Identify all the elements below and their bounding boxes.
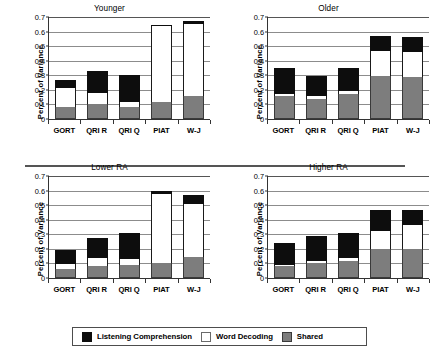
bar-segment-gray: [119, 265, 140, 278]
bar-slot: [81, 17, 113, 119]
x-tick-marks-lower-ra: [48, 279, 210, 283]
legend-label: Word Decoding: [216, 332, 273, 341]
x-axis-label: QRI Q: [113, 126, 145, 135]
bar-segment-gray: [370, 249, 391, 278]
bar-slot: [49, 176, 81, 278]
panel-lower-ra: Lower RA Percent of Variance 0.70.60.50.…: [0, 163, 219, 315]
stacked-bar[interactable]: [274, 68, 295, 119]
bar-slot: [81, 176, 113, 278]
bar-segment-black: [87, 238, 108, 258]
y-tick-label: 0.2: [254, 85, 264, 94]
bar-segment-white: [370, 51, 391, 76]
stacked-bar[interactable]: [87, 71, 108, 119]
x-axis-label: QRI R: [299, 126, 331, 135]
bar-segment-black: [306, 236, 327, 261]
y-tick-label: 0.3: [35, 230, 45, 239]
bar-slot: [178, 176, 210, 278]
bar-slot: [268, 17, 300, 119]
stacked-bar[interactable]: [370, 36, 391, 119]
bar-segment-gray: [183, 257, 204, 278]
x-axis-label: QRI R: [80, 126, 112, 135]
stacked-bar[interactable]: [338, 68, 359, 119]
bar-segment-black: [119, 233, 140, 259]
x-tick-marks-older: [267, 120, 429, 124]
x-axis-label: QRI R: [299, 285, 331, 294]
bar-segment-gray: [338, 94, 359, 120]
bar-segment-black: [338, 68, 359, 91]
y-tick-label: 0.3: [254, 71, 264, 80]
bar-group: [268, 17, 429, 119]
x-tick-mark: [267, 279, 268, 283]
bar-segment-gray: [55, 269, 76, 278]
bar-segment-white: [151, 26, 172, 102]
stacked-bar[interactable]: [338, 233, 359, 278]
legend-item-decoding[interactable]: Word Decoding: [201, 332, 273, 342]
bar-segment-black: [87, 71, 108, 93]
x-axis-label: QRI Q: [332, 285, 364, 294]
stacked-bar[interactable]: [370, 210, 391, 278]
bar-segment-white: [87, 93, 108, 105]
y-tick-label: 0.5: [254, 201, 264, 210]
x-axis-label: GORT: [48, 126, 80, 135]
bar-group: [49, 176, 210, 278]
panel-older: Older Percent of Variance 0.70.60.50.40.…: [219, 0, 438, 163]
stacked-bar[interactable]: [151, 25, 172, 119]
y-tick-label: 0.2: [254, 244, 264, 253]
stacked-bar[interactable]: [87, 238, 108, 278]
plot-area-older: 0.70.60.50.40.30.20.10: [267, 17, 429, 120]
chart-legend: Listening ComprehensionWord DecodingShar…: [72, 327, 367, 346]
x-axis-label: GORT: [48, 285, 80, 294]
bar-segment-gray: [87, 266, 108, 278]
bar-segment-gray: [306, 99, 327, 119]
bar-segment-white: [151, 194, 172, 264]
x-tick-mark: [429, 120, 430, 124]
x-tick-mark: [178, 120, 179, 124]
stacked-bar[interactable]: [119, 233, 140, 278]
bar-slot: [365, 17, 397, 119]
x-axis-label: GORT: [267, 126, 299, 135]
bar-segment-black: [55, 250, 76, 264]
bar-segment-white: [87, 258, 108, 266]
bar-slot: [397, 17, 429, 119]
stacked-bar[interactable]: [151, 191, 172, 278]
bar-segment-gray: [370, 76, 391, 119]
x-axis-labels-younger: GORTQRI RQRI QPIATW-J: [48, 126, 210, 135]
stacked-bar[interactable]: [119, 75, 140, 119]
stacked-bar[interactable]: [274, 243, 295, 278]
legend-item-listening[interactable]: Listening Comprehension: [82, 332, 192, 342]
bar-segment-black: [274, 243, 295, 265]
x-tick-mark: [80, 120, 81, 124]
bar-slot: [113, 17, 145, 119]
y-tick-label: 0.4: [35, 56, 45, 65]
x-axis-label: W-J: [178, 285, 210, 294]
x-tick-mark: [113, 120, 114, 124]
x-axis-label: QRI Q: [113, 285, 145, 294]
stacked-bar[interactable]: [306, 236, 327, 278]
y-tick-label: 0.7: [254, 13, 264, 22]
legend-item-shared[interactable]: Shared: [282, 332, 323, 342]
stacked-bar[interactable]: [55, 250, 76, 278]
y-tick-label: 0.2: [35, 244, 45, 253]
x-tick-mark: [397, 120, 398, 124]
stacked-bar[interactable]: [306, 76, 327, 119]
bar-group: [49, 17, 210, 119]
bar-segment-white: [402, 52, 423, 77]
stacked-bar[interactable]: [183, 195, 204, 278]
bar-slot: [300, 176, 332, 278]
bar-segment-white: [183, 24, 204, 96]
stacked-bar[interactable]: [402, 37, 423, 119]
stacked-bar[interactable]: [183, 21, 204, 119]
stacked-bar[interactable]: [55, 80, 76, 119]
y-tick-label: 0.1: [35, 259, 45, 268]
bar-segment-white: [370, 231, 391, 248]
y-tick-label: 0.1: [254, 100, 264, 109]
y-tick-label: 0.1: [35, 100, 45, 109]
stacked-bar[interactable]: [402, 210, 423, 278]
y-tick-label: 0.5: [35, 42, 45, 51]
bar-segment-gray: [338, 261, 359, 278]
y-tick-label: 0.4: [35, 215, 45, 224]
panel-title-younger: Younger: [0, 4, 219, 13]
y-tick-label: 0.5: [254, 42, 264, 51]
legend-swatch-listening-icon: [82, 332, 92, 342]
y-tick-label: 0.7: [35, 172, 45, 181]
